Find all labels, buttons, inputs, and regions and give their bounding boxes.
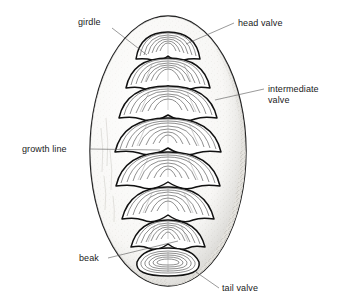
label-beak: beak [79, 253, 99, 263]
chiton-diagram: girdle head valve intermediate valve gro… [0, 0, 337, 303]
label-tail-valve: tail valve [222, 283, 258, 293]
label-head-valve: head valve [238, 18, 283, 28]
label-intermediate-valve-line1: intermediate [268, 84, 319, 94]
label-girdle: girdle [78, 17, 101, 27]
leader-tail-valve [196, 272, 219, 288]
valve-tail [137, 248, 199, 276]
label-intermediate-valve-line2: valve [268, 95, 290, 105]
label-growth-line: growth line [22, 144, 67, 154]
diagram-canvas: girdle head valve intermediate valve gro… [0, 0, 337, 303]
